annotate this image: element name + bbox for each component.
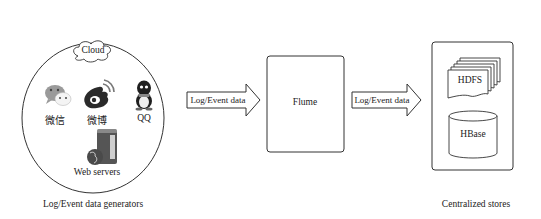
arrow-1-label: Log/Event data [189, 95, 247, 105]
arrow-2-label: Log/Event data [353, 95, 411, 105]
diagram-canvas [0, 0, 541, 219]
hdfs-label: HDFS [455, 75, 485, 85]
generators-caption: Log/Event data generators [30, 199, 156, 209]
weibo-icon [84, 80, 114, 108]
qq-penguin-icon [136, 81, 153, 111]
weibo-label: 微博 [84, 112, 110, 127]
web-server-icon [87, 129, 117, 165]
flume-label: Flume [280, 97, 330, 107]
cloud-label: Cloud [79, 45, 107, 55]
stores-caption: Centralized stores [436, 199, 516, 209]
wechat-icon [45, 85, 71, 106]
web-servers-label: Web servers [71, 167, 123, 177]
hbase-label: HBase [457, 129, 489, 139]
qq-label: QQ [133, 113, 155, 123]
wechat-label: 微信 [42, 112, 68, 127]
